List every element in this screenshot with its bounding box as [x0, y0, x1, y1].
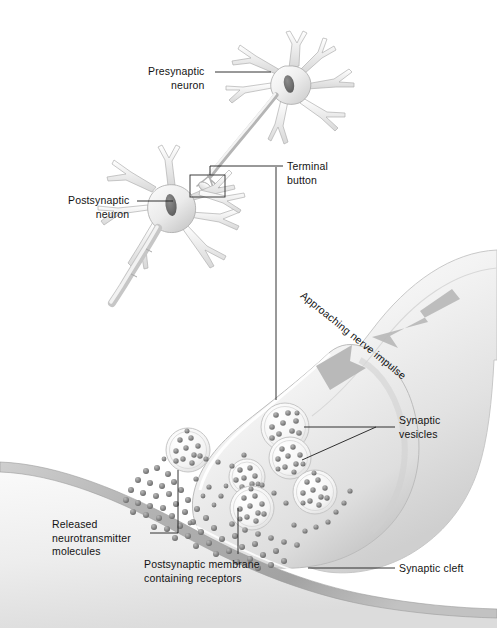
label-synaptic-vesicles: Synaptic vesicles — [399, 414, 440, 441]
presynaptic-axon-highlight — [209, 94, 275, 175]
label-synaptic-cleft: Synaptic cleft — [399, 562, 464, 576]
label-postsynaptic-neuron: Postsynaptic neuron — [68, 194, 129, 221]
postsynaptic-myelinated-axon — [111, 227, 158, 303]
presynaptic-axon — [210, 95, 276, 176]
synaptic-vesicle — [230, 486, 274, 530]
postsynaptic-neuron — [98, 145, 245, 303]
label-presynaptic-neuron: Presynaptic neuron — [148, 65, 205, 92]
label-terminal-button: Terminal button — [287, 160, 328, 187]
synapse-figure: Presynaptic neuron Postsynaptic neuron T… — [0, 0, 497, 628]
synaptic-vesicle — [293, 470, 337, 514]
label-postsynaptic-membrane: Postsynaptic membrane containing recepto… — [144, 558, 260, 585]
label-released-neurotransmitter-molecules: Released neurotransmitter molecules — [52, 518, 131, 559]
presynaptic-neuron — [197, 31, 354, 194]
synaptic-vesicle — [166, 428, 210, 472]
leader-terminal-button — [210, 166, 283, 175]
